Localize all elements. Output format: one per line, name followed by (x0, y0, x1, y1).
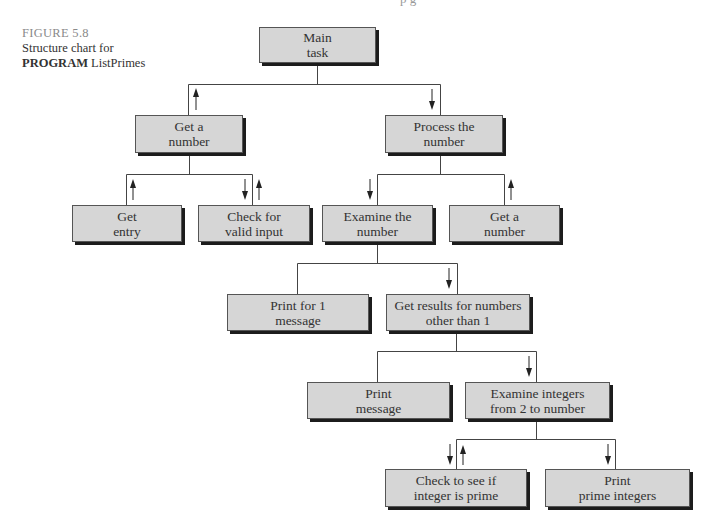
arrow-up-icon (193, 88, 199, 110)
arrow-down-icon (526, 356, 532, 377)
module-main-task: Main task (259, 27, 376, 63)
module-label: Check for valid input (225, 209, 283, 239)
module-label: Main task (303, 30, 332, 60)
module-label: Print prime integers (579, 473, 657, 503)
module-label: Print message (356, 386, 402, 416)
module-get-results-for-numbers: Get results for numbers other than 1 (386, 294, 530, 331)
module-print-message: Print message (307, 382, 450, 419)
arrow-up-icon (256, 179, 262, 200)
module-check-integer-is-prime: Check to see if integer is prime (385, 469, 527, 507)
module-label: Process the number (413, 119, 474, 149)
module-label: Get a number (484, 209, 525, 239)
module-get-entry: Get entry (72, 205, 182, 242)
module-label: Check to see if integer is prime (414, 473, 499, 503)
arrow-down-icon (446, 268, 452, 289)
module-get-a-number-2: Get a number (449, 205, 560, 242)
arrow-down-icon (242, 179, 248, 200)
arrow-up-icon (508, 179, 514, 200)
module-label: Get results for numbers other than 1 (394, 298, 521, 328)
module-check-for-valid-input: Check for valid input (198, 205, 310, 242)
module-process-the-number: Process the number (385, 115, 503, 153)
module-print-for-1-message: Print for 1 message (227, 294, 369, 331)
arrow-down-icon (605, 444, 611, 465)
module-examine-integers: Examine integers from 2 to number (465, 382, 610, 419)
module-print-prime-integers: Print prime integers (545, 469, 690, 507)
arrow-down-icon (367, 179, 373, 200)
connector-lines (0, 0, 712, 523)
module-label: Examine the number (344, 209, 412, 239)
module-label: Print for 1 message (270, 298, 326, 328)
module-get-a-number: Get a number (135, 115, 243, 153)
module-examine-the-number: Examine the number (322, 205, 433, 242)
module-label: Get entry (113, 209, 141, 239)
arrow-up-icon (130, 179, 136, 200)
arrow-up-icon (460, 445, 466, 465)
arrow-down-icon (429, 89, 435, 110)
arrow-down-icon (447, 444, 453, 465)
module-label: Get a number (168, 119, 209, 149)
module-label: Examine integers from 2 to number (490, 386, 585, 416)
